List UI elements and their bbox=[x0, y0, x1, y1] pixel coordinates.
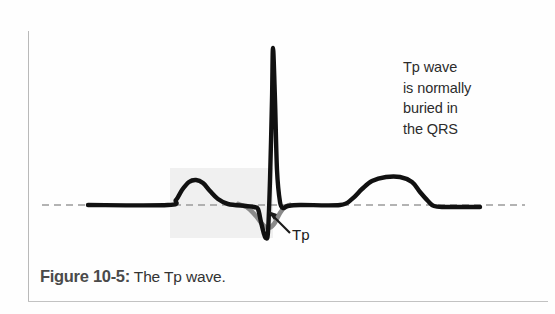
annotation-note: Tp wave is normally buried in the QRS bbox=[403, 57, 471, 139]
figure-caption: Figure 10-5: The Tp wave. bbox=[40, 267, 226, 286]
figure-container: Tp wave is normally buried in the QRS Tp… bbox=[0, 0, 555, 314]
tp-wave-label: Tp bbox=[292, 226, 310, 243]
figure-caption-title: The Tp wave. bbox=[134, 268, 226, 285]
figure-caption-number: Figure 10-5: bbox=[40, 267, 130, 285]
